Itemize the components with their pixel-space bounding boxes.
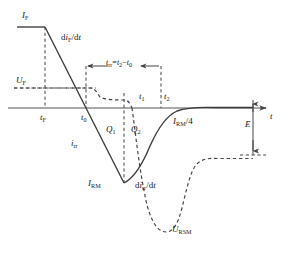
current-curve xyxy=(17,27,253,183)
label-t-axis: t xyxy=(270,112,273,121)
reverse-recovery-diagram: IF diF/dt UF trr=t2−t0 tF t0 t1 t2 irr Q… xyxy=(0,0,287,255)
label-forward-current: IF xyxy=(22,11,28,20)
voltage-curve xyxy=(14,88,253,232)
label-ursm: URSM xyxy=(172,225,192,234)
label-t0: t0 xyxy=(81,113,87,122)
label-t1: t1 xyxy=(139,92,145,101)
label-tf: tF xyxy=(40,113,46,122)
label-irm: IRM xyxy=(88,179,101,188)
label-irr-current: irr xyxy=(71,139,78,148)
label-dirr-dt: dirr/dt xyxy=(135,181,156,190)
label-dif-dt: diF/dt xyxy=(61,33,81,42)
diagram-canvas xyxy=(0,0,287,255)
label-forward-voltage: UF xyxy=(16,76,26,85)
label-e: E xyxy=(245,120,251,129)
label-trr-expression: trr=t2−t0 xyxy=(106,59,132,67)
label-q2: Q2 xyxy=(131,125,141,134)
label-t2: t2 xyxy=(164,92,170,101)
label-q1: Q1 xyxy=(106,125,116,134)
label-irm-quarter: IRM/4 xyxy=(173,117,193,126)
